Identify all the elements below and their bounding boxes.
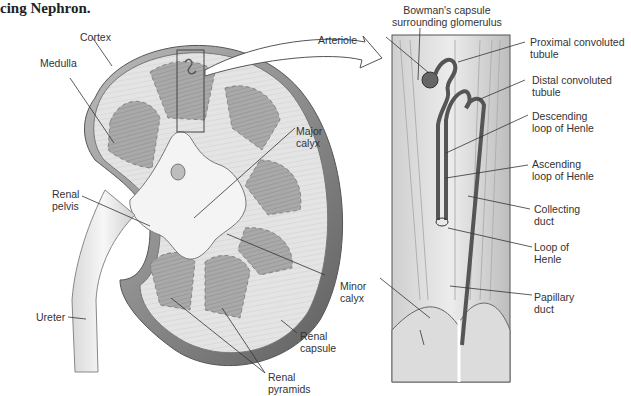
label-renal-capsule: Renal capsule [300, 330, 336, 354]
label-medulla: Medulla [40, 57, 77, 69]
label-renal-pelvis: Renal pelvis [52, 188, 79, 212]
label-ureter: Ureter [36, 311, 65, 323]
label-loop-of-henle: Loop of Henle [534, 241, 569, 265]
label-major-calyx: Major calyx [296, 125, 322, 149]
label-collecting-duct: Collecting duct [534, 203, 580, 227]
label-arteriole: Arteriole [318, 34, 357, 46]
label-cortex: Cortex [80, 31, 111, 43]
label-ascending-loop: Ascending loop of Henle [532, 158, 594, 182]
label-proximal-tubule: Proximal convoluted tubule [530, 36, 625, 60]
label-minor-calyx: Minor calyx [340, 280, 366, 304]
label-descending-loop: Descending loop of Henle [532, 110, 594, 134]
label-papillary-duct: Papillary duct [534, 291, 574, 315]
nephron-panel [392, 35, 510, 382]
label-renal-pyramids: Renal pyramids [268, 371, 311, 395]
kidney-section [72, 45, 343, 372]
label-distal-tubule: Distal convoluted tubule [532, 74, 612, 98]
label-bowmans-capsule: Bowman's capsule surrounding glomerulus [392, 4, 502, 28]
